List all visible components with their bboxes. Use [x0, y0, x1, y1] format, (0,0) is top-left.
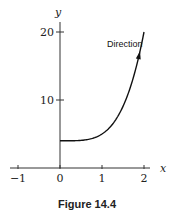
annotation-direction: Direction	[107, 39, 143, 49]
x-axis-label: x	[160, 162, 167, 175]
x-tick-label: −1	[10, 172, 26, 185]
y-axis-label: y	[54, 6, 62, 19]
direction-arrow-icon	[136, 51, 141, 59]
y-tick-label: 20	[40, 26, 54, 39]
y-tick-label: 10	[40, 94, 54, 107]
x-tick-label: 0	[57, 172, 64, 185]
chart: −10121020xyDirection	[0, 0, 174, 222]
x-tick-label: 1	[99, 172, 106, 185]
x-tick-label: 2	[141, 172, 148, 185]
figure-caption: Figure 14.4	[0, 198, 174, 210]
